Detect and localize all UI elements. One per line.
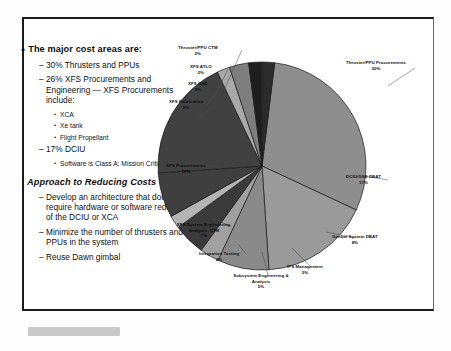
pie-slice-label: Subsystem Engineering & Analysis5% [226, 273, 296, 290]
bullet-heading-label: The major cost areas are: [28, 44, 142, 54]
pie-chart: Thruster/PPU Procurements30%DCIU/GSE DBA… [150, 26, 442, 308]
pie-slice-name: XFS ATLO [190, 64, 212, 69]
pie-slice-name: XFS GSE [188, 81, 207, 86]
pie-slice-name: Thruster/PPU CTM [178, 45, 218, 50]
pie-slice-value: 2% [178, 51, 218, 57]
section-bullet-label: Reuse Dawn gimbal [46, 252, 120, 262]
dash-bullet-icon: – [39, 60, 46, 70]
pie-slice-value: 7% [168, 233, 240, 239]
dash-bullet-icon: – [39, 227, 46, 248]
pie-slice-name: XFS Fabrication [169, 99, 203, 104]
diamond-bullet-icon: ♦ [21, 44, 25, 55]
pie-slice-label: XFS System Engineering, Analysis, CTM7% [168, 222, 240, 239]
pie-slice-value: 30% [346, 66, 406, 72]
pie-slice-label: Thruster/PPU CTM2% [178, 45, 218, 56]
pie-slice-label: Thruster/PPU Procurements30% [346, 60, 406, 71]
pie-slice-value: 2% [169, 105, 203, 111]
pie-slice-value: 19% [166, 169, 206, 175]
pie-slice-name: Integration Testing [199, 251, 239, 256]
pie-slice-value: 3% [188, 87, 207, 93]
pie-slice-label: XFS Procurements19% [166, 163, 206, 174]
bullet-item-label: 30% Thrusters and PPUs [46, 60, 139, 70]
pie-slice-name: IPS Management [287, 264, 323, 269]
pie-slice-value: 17% [346, 180, 381, 186]
pie-slice-label: DCIU/GSE DBAT17% [346, 174, 381, 185]
dash-bullet-icon: – [39, 74, 46, 105]
pie-slice-value: 5% [226, 284, 296, 290]
pie-slice-label: XFS Fabrication2% [169, 99, 203, 110]
sub-bullet-label: Flight Propellant [60, 133, 108, 142]
pie-slice-label: XFS GSE3% [188, 81, 207, 92]
dash-bullet-icon: – [39, 144, 46, 154]
dash-bullet-icon: – [39, 192, 46, 223]
scanned-page-background: ♦ The major cost areas are: – 30% Thrust… [0, 0, 451, 351]
pie-slice-value: 8% [332, 240, 378, 246]
pie-slice-label: Gimbal System DBAT8% [332, 234, 378, 245]
pie-slice-label: XFS ATLO2% [190, 64, 212, 75]
pie-slice-name: Thruster/PPU Procurements [346, 60, 406, 65]
pie-slice-name: XFS System Engineering, Analysis, CTM [177, 222, 231, 233]
sub-bullet-label: XCA [60, 110, 74, 119]
pie-slice-value: 2% [199, 257, 239, 263]
bullet-item-label: 17% DCIU [46, 144, 85, 154]
pie-slice-value: 2% [190, 70, 212, 76]
sub-bullet-label: Xe tank [60, 121, 83, 130]
pie-slice-name: Subsystem Engineering & Analysis [233, 273, 289, 284]
pie-slice-name: DCIU/GSE DBAT [346, 174, 381, 179]
pie-slice-label: Integration Testing2% [199, 251, 239, 262]
dash-bullet-icon: – [39, 252, 46, 262]
pie-slice-name: XFS Procurements [166, 163, 206, 168]
pie-slice-name: Gimbal System DBAT [332, 234, 378, 239]
footer-bar [28, 327, 120, 336]
